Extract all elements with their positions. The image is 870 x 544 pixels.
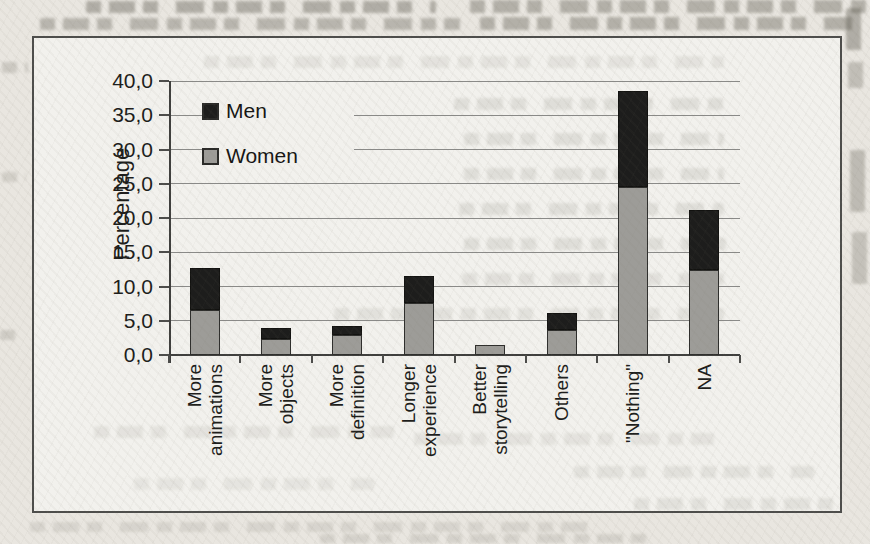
x-axis-tick xyxy=(382,355,384,363)
y-axis-tick xyxy=(159,320,169,322)
bar-segment-women xyxy=(618,187,648,355)
scan-text-line xyxy=(848,62,868,88)
bar-segment-women xyxy=(404,303,434,355)
scan-text-line xyxy=(846,8,868,50)
bar-segment-men xyxy=(332,326,362,336)
x-axis-category-label: Moreanimations xyxy=(184,364,226,514)
bar-segment-men xyxy=(689,210,719,270)
legend-swatch-men xyxy=(202,103,219,120)
bar-segment-men xyxy=(404,276,434,303)
y-axis-title: Percentage xyxy=(109,134,135,274)
x-axis-category-label: Moreobjects xyxy=(255,364,297,514)
y-axis-tick xyxy=(159,114,169,116)
legend-label: Men xyxy=(226,99,267,123)
bar-segment-women xyxy=(475,345,505,355)
scan-text-line xyxy=(850,150,868,212)
y-axis-tick-label: 40,0 xyxy=(81,68,153,94)
scan-text-line xyxy=(480,17,860,30)
bar-segment-men xyxy=(547,313,577,329)
x-axis-category-label: "Nothing" xyxy=(622,364,643,514)
scan-text-line xyxy=(40,18,460,30)
y-axis-tick xyxy=(159,183,169,185)
bar-segment-women xyxy=(190,310,220,355)
y-axis-tick-label: 0,0 xyxy=(81,342,153,368)
scan-text-line xyxy=(2,62,28,73)
scan-text-line xyxy=(2,172,26,182)
y-axis-tick xyxy=(159,286,169,288)
y-axis-tick xyxy=(159,251,169,253)
x-axis-tick xyxy=(668,355,670,363)
bar-segment-men xyxy=(190,268,220,310)
legend-swatch-women xyxy=(202,148,219,165)
scan-text-line xyxy=(0,330,20,340)
x-axis-tick xyxy=(454,355,456,363)
x-axis-tick xyxy=(239,355,241,363)
bar-segment-women xyxy=(547,330,577,355)
y-axis-tick xyxy=(159,80,169,82)
y-axis-line xyxy=(169,81,171,363)
y-axis-tick xyxy=(159,149,169,151)
stacked-bar-chart: 0,05,010,015,020,025,030,035,040,0Morean… xyxy=(34,38,840,511)
x-axis-tick xyxy=(739,355,741,363)
scan-text-line xyxy=(852,232,868,284)
y-axis-tick-label: 35,0 xyxy=(81,102,153,128)
gridline xyxy=(169,218,740,219)
x-axis-category-label: NA xyxy=(694,364,715,514)
x-axis-category-label: Others xyxy=(551,364,572,514)
y-axis-tick-label: 10,0 xyxy=(81,274,153,300)
scanned-page: 0,05,010,015,020,025,030,035,040,0Morean… xyxy=(0,0,870,544)
x-axis-tick xyxy=(168,355,170,363)
gridline xyxy=(169,320,740,321)
scan-text-line xyxy=(470,0,866,13)
y-axis-tick xyxy=(159,217,169,219)
x-axis-category-label: Moredefinition xyxy=(326,364,368,514)
bar-segment-women xyxy=(332,335,362,355)
x-axis-tick xyxy=(311,355,313,363)
bar-segment-men xyxy=(618,91,648,187)
gridline xyxy=(169,286,740,287)
x-axis-category-label: Longerexperience xyxy=(398,364,440,514)
bar-segment-women xyxy=(689,270,719,355)
x-axis-tick xyxy=(596,355,598,363)
scan-text-line xyxy=(320,534,650,543)
gridline xyxy=(169,81,740,82)
x-axis-tick xyxy=(525,355,527,363)
scan-text-line xyxy=(30,522,590,532)
x-axis-category-label: Betterstorytelling xyxy=(469,364,511,514)
bar-segment-women xyxy=(261,339,291,355)
legend-label: Women xyxy=(226,144,298,168)
y-axis-tick-label: 5,0 xyxy=(81,308,153,334)
legend-item-women: Women xyxy=(202,143,354,169)
chart-frame: 0,05,010,015,020,025,030,035,040,0Morean… xyxy=(32,36,842,513)
gridline xyxy=(169,183,740,184)
bar-segment-men xyxy=(261,328,291,340)
scan-text-line xyxy=(86,1,436,13)
gridline xyxy=(169,252,740,253)
legend-item-men: Men xyxy=(202,98,354,124)
